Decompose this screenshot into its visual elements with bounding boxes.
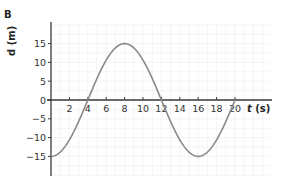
svg-text:10: 10 [34,57,46,68]
axes [47,22,272,176]
svg-text:18: 18 [211,103,223,114]
x-axis-label: t (s) [247,103,270,114]
svg-text:8: 8 [122,103,128,114]
svg-text:14: 14 [174,103,186,114]
svg-text:−15: −15 [26,151,46,162]
svg-text:0: 0 [40,95,46,106]
svg-text:−5: −5 [32,113,46,124]
svg-text:6: 6 [103,103,109,114]
svg-text:15: 15 [34,38,46,49]
chart-plot: 151050−5−10−152468101214161820 t (s) [0,0,284,187]
svg-text:5: 5 [40,76,46,87]
svg-text:−10: −10 [26,132,46,143]
svg-text:10: 10 [137,103,149,114]
svg-text:2: 2 [66,103,72,114]
svg-text:16: 16 [192,103,204,114]
